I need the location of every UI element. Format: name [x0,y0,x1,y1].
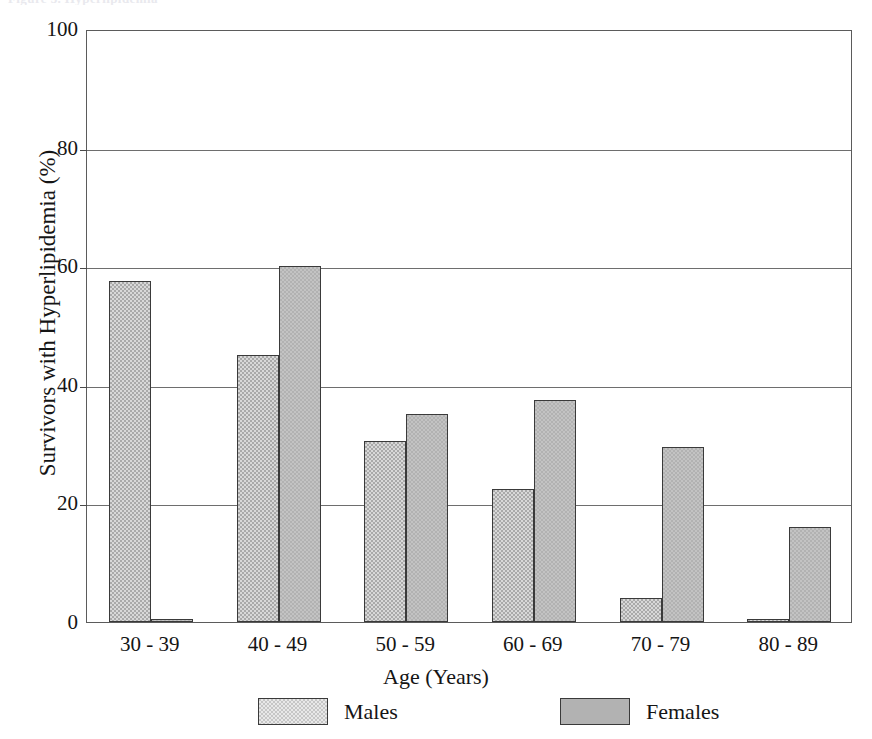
y-axis-tick-label: 20 [18,493,78,514]
y-axis-tick-labels: 020406080100 [0,30,78,623]
bar-males-80-89 [747,619,789,622]
y-axis-tick-label: 0 [18,612,78,633]
top-caption-remnant: Figure 3. Hyperlipidemia [8,0,348,5]
figure-container: Figure 3. Hyperlipidemia Survivors with … [0,0,872,739]
y-axis-tick [80,150,87,151]
x-axis-tick-label: 60 - 69 [468,632,598,657]
y-axis-tick [80,387,87,388]
x-axis-title: Age (Years) [0,664,872,690]
bar-males-70-79 [620,598,662,622]
legend-swatch-males-icon [258,698,328,725]
y-axis-tick-label: 40 [18,375,78,396]
legend-item-females[interactable]: Females [560,698,719,725]
bar-females-70-79 [662,447,704,622]
gridline [87,387,851,388]
bar-females-30-39 [151,619,193,622]
y-axis-tick-label: 60 [18,256,78,277]
chart-legend: Males Females [0,698,872,732]
legend-label-females: Females [646,699,719,725]
bar-males-50-59 [364,441,406,622]
y-axis-tick [80,505,87,506]
legend-label-males: Males [344,699,398,725]
bar-females-60-69 [534,400,576,622]
bar-males-40-49 [237,355,279,622]
bar-females-80-89 [789,527,831,622]
bar-males-30-39 [109,281,151,622]
y-axis-tick [80,268,87,269]
gridline [87,268,851,269]
legend-swatch-females-icon [560,698,630,725]
x-axis-tick-label: 40 - 49 [213,632,343,657]
x-axis-tick-label: 50 - 59 [340,632,470,657]
bar-females-40-49 [279,266,321,622]
y-axis-tick-label: 80 [18,138,78,159]
gridline [87,150,851,151]
y-axis-tick-label: 100 [18,19,78,40]
x-axis-tick-label: 70 - 79 [596,632,726,657]
gridline [87,505,851,506]
x-axis-tick-label: 30 - 39 [85,632,215,657]
bar-females-50-59 [406,414,448,622]
x-axis-tick-label: 80 - 89 [723,632,853,657]
plot-area [86,30,852,623]
bar-males-60-69 [492,489,534,622]
legend-item-males[interactable]: Males [258,698,398,725]
